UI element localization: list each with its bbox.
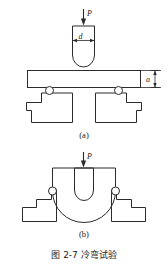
figure-caption: 图 2-7 冷弯试验 bbox=[51, 249, 116, 260]
bent-specimen-b bbox=[53, 168, 116, 223]
panel-a-group bbox=[27, 9, 162, 123]
roller-right-b bbox=[112, 187, 120, 195]
roller-left-b bbox=[49, 187, 57, 195]
cold-bend-test-diagram: P d a (a) P (b) 图 2-7 冷弯试验 bbox=[0, 0, 168, 264]
roller-left-a bbox=[46, 87, 54, 95]
panel-label-a: (a) bbox=[79, 130, 89, 140]
panel-b-group bbox=[23, 152, 146, 223]
punch-diameter-dimension-a bbox=[73, 37, 95, 45]
roller-right-a bbox=[115, 87, 123, 95]
support-block-left-a bbox=[27, 93, 73, 123]
load-label-b: P bbox=[86, 152, 92, 161]
thickness-label-a: a bbox=[146, 75, 150, 84]
thickness-dimension-a bbox=[141, 71, 162, 88]
punch-diameter-label-a: d bbox=[79, 32, 84, 41]
load-arrow-b bbox=[81, 152, 86, 168]
load-label-a: P bbox=[86, 9, 92, 18]
load-arrow-a bbox=[81, 9, 86, 26]
support-block-right-a bbox=[96, 93, 142, 123]
panel-label-b: (b) bbox=[79, 229, 89, 239]
specimen-plate-a bbox=[28, 71, 141, 88]
figure-container: P d a (a) P (b) 图 2-7 冷弯试验 bbox=[0, 0, 168, 264]
punch-body-a bbox=[73, 26, 95, 67]
punch-body-b bbox=[75, 168, 94, 200]
